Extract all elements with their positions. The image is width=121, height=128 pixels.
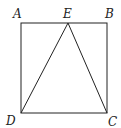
label-d: D <box>5 114 16 128</box>
label-e: E <box>62 7 72 21</box>
geometry-figure: A E B D C <box>0 0 121 128</box>
label-b: B <box>104 7 114 21</box>
segment-ec <box>68 23 107 113</box>
segment-de <box>21 23 68 113</box>
label-c: C <box>108 115 117 128</box>
label-a: A <box>12 7 22 21</box>
square-abcd <box>21 23 107 113</box>
